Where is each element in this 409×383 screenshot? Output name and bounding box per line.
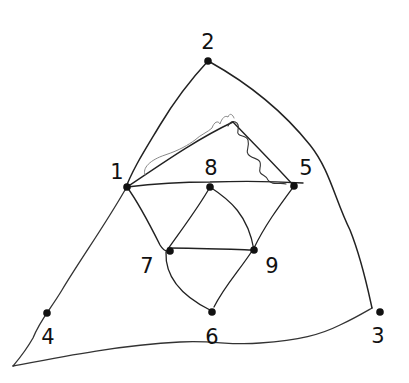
node-label-4: 4 [41, 327, 54, 348]
node-label-3: 3 [371, 326, 384, 347]
scribble-right [228, 122, 286, 184]
edge-8-7 [168, 187, 210, 249]
edge-1-7 [127, 187, 170, 251]
node-7 [166, 247, 174, 255]
edge-peak-to-5 [233, 122, 294, 186]
node-label-6: 6 [205, 327, 218, 348]
node-6 [208, 308, 216, 316]
edge-1-8-5 [127, 181, 303, 187]
outer-edge-1-to-bottom-left [13, 190, 125, 366]
node-1 [123, 183, 131, 191]
edge-7-6 [166, 252, 210, 310]
node-4 [43, 309, 51, 317]
node-label-5: 5 [299, 158, 312, 179]
edge-8-9 [210, 187, 254, 250]
node-label-2: 2 [201, 32, 214, 53]
node-9 [250, 246, 258, 254]
node-label-7: 7 [140, 256, 153, 277]
node-2 [204, 57, 212, 65]
node-8 [206, 183, 214, 191]
node-3 [376, 308, 384, 316]
node-label-1: 1 [110, 162, 123, 183]
graph-diagram: 1 2 3 4 5 6 7 8 9 [0, 0, 409, 383]
node-5 [290, 182, 298, 190]
outer-edge-bottom [13, 308, 372, 366]
edge-7-9 [168, 248, 252, 250]
node-label-8: 8 [204, 158, 217, 179]
outer-edge-2-to-1 [125, 61, 208, 190]
node-label-9: 9 [265, 256, 278, 277]
